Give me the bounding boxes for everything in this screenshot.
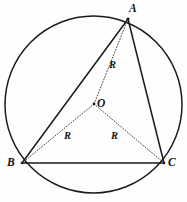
vertex-label-c: C: [168, 157, 176, 169]
vertex-point-c: [163, 162, 166, 165]
side-ca: [128, 19, 164, 163]
vertex-label-b: B: [7, 157, 15, 169]
vertex-point-b: [21, 162, 24, 165]
radius-label-oc: R: [111, 131, 118, 142]
vertex-point-a: [126, 17, 129, 20]
center-label-o: O: [97, 98, 105, 110]
geometry-figure: A B C O R R R: [0, 0, 187, 202]
radius-label-ob: R: [64, 131, 71, 142]
geometry-canvas: [0, 0, 187, 202]
vertex-label-a: A: [129, 3, 137, 15]
radius-label-oa: R: [109, 60, 116, 71]
center-point-o: [93, 103, 96, 106]
radius-oc: [94, 104, 164, 163]
